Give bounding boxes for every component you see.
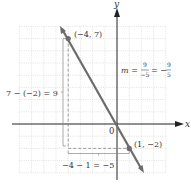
grid bbox=[19, 26, 165, 172]
svg-text:= −: = − bbox=[151, 66, 167, 75]
svg-text:5: 5 bbox=[167, 71, 171, 78]
svg-text:9: 9 bbox=[167, 61, 171, 68]
rise-label: 7 − (−2) = 9 bbox=[6, 89, 58, 98]
y-axis-label: y bbox=[113, 0, 120, 9]
run-label: −4 − 1 = −5 bbox=[62, 161, 114, 170]
x-axis-label: x bbox=[185, 119, 190, 129]
point-b bbox=[127, 146, 132, 151]
origin-label: 0 bbox=[109, 126, 114, 136]
point-a bbox=[66, 36, 71, 41]
svg-text:9: 9 bbox=[143, 61, 147, 68]
x-axis-arrow-icon bbox=[175, 121, 184, 127]
point-b-label: (1, −2) bbox=[134, 140, 162, 149]
svg-text:−5: −5 bbox=[141, 71, 150, 78]
rise-bracket bbox=[61, 39, 66, 146]
coordinate-plane: y x 0 (−4, 7) (1, −2) 7 − (−2) = 9 −4 − … bbox=[0, 0, 191, 192]
slope-formula: m = 9 −5 = − 9 5 bbox=[121, 61, 171, 78]
run-bracket bbox=[68, 151, 129, 156]
point-a-label: (−4, 7) bbox=[74, 30, 102, 39]
svg-text:m =: m = bbox=[121, 66, 138, 75]
y-axis-arrow-icon bbox=[114, 8, 120, 17]
